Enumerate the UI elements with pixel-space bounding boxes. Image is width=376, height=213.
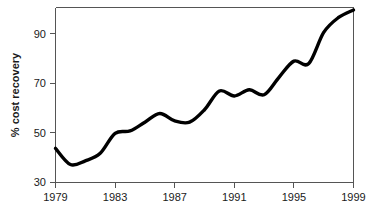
data-series-line xyxy=(56,10,354,165)
y-tick-label-50: 50 xyxy=(34,127,46,139)
x-axis-ticks xyxy=(56,183,354,189)
x-axis-tick-labels: 1979 1983 1987 1991 1995 1999 xyxy=(43,191,365,203)
y-axis-tick-labels: 90 70 50 30 xyxy=(34,28,46,189)
plot-frame xyxy=(56,8,354,183)
y-tick-label-70: 70 xyxy=(34,77,46,89)
y-axis-ticks xyxy=(50,34,55,183)
y-tick-label-30: 30 xyxy=(34,176,46,188)
cost-recovery-line-chart: 90 70 50 30 1979 1983 1987 1991 1995 199… xyxy=(0,0,376,213)
chart-container: 90 70 50 30 1979 1983 1987 1991 1995 199… xyxy=(0,0,376,213)
x-tick-label-1983: 1983 xyxy=(103,191,127,203)
x-tick-label-1999: 1999 xyxy=(341,191,365,203)
y-tick-label-90: 90 xyxy=(34,28,46,40)
x-tick-label-1979: 1979 xyxy=(43,191,67,203)
y-axis-title: % cost recovery xyxy=(9,52,21,137)
x-tick-label-1991: 1991 xyxy=(222,191,246,203)
x-tick-label-1987: 1987 xyxy=(162,191,186,203)
x-tick-label-1995: 1995 xyxy=(282,191,306,203)
plot-border xyxy=(56,8,354,183)
